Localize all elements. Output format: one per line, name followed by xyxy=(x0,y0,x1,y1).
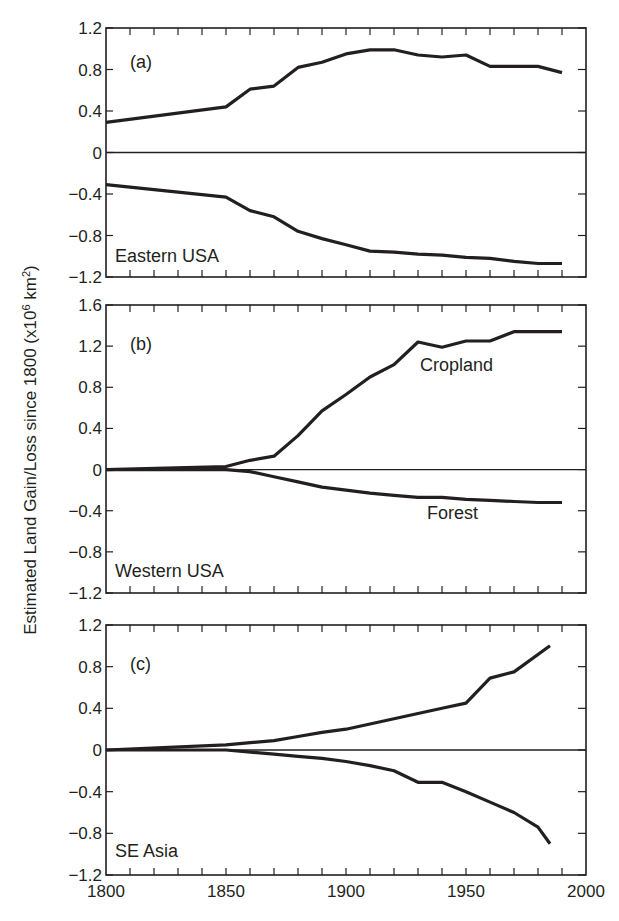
y-tick-label: 1.2 xyxy=(78,19,102,38)
y-tick-label: −0.4 xyxy=(68,783,102,802)
y-tick-label: −0.8 xyxy=(68,543,102,562)
series-cropland-line xyxy=(106,332,562,470)
panel-letter: (b) xyxy=(130,334,152,354)
y-tick-label: −0.4 xyxy=(68,185,102,204)
series-forest-line xyxy=(106,750,550,844)
cropland-label: Cropland xyxy=(420,355,493,375)
y-tick-label: 1.6 xyxy=(78,296,102,315)
y-tick-label: 0 xyxy=(93,741,102,760)
x-tick-label: 1900 xyxy=(327,882,365,901)
y-tick-label: 1.2 xyxy=(78,616,102,635)
region-label: SE Asia xyxy=(115,841,179,861)
y-tick-label: −1.2 xyxy=(68,584,102,603)
region-label: Eastern USA xyxy=(115,246,219,266)
y-tick-label: 0.4 xyxy=(78,102,102,121)
y-tick-label: 1.2 xyxy=(78,337,102,356)
region-label: Western USA xyxy=(115,561,224,581)
panel-a: 1.20.80.40−0.4−0.8−1.2(a)Eastern USA xyxy=(68,19,586,287)
series-forest-line xyxy=(106,470,562,503)
panel-b: 1.61.20.80.40−0.4−0.8−1.2(b)Western USAC… xyxy=(68,296,586,603)
y-tick-label: 0.4 xyxy=(78,419,102,438)
y-tick-label: 0 xyxy=(93,144,102,163)
y-tick-label: −1.2 xyxy=(68,268,102,287)
x-tick-label: 1950 xyxy=(447,882,485,901)
plot-frame xyxy=(106,305,586,593)
y-tick-label: −0.8 xyxy=(68,227,102,246)
forest-label: Forest xyxy=(427,503,478,523)
y-tick-label: 0.8 xyxy=(78,658,102,677)
y-tick-label: −0.8 xyxy=(68,824,102,843)
panel-c: 1.20.80.40−0.4−0.8−1.2(c)SE Asia18001850… xyxy=(68,616,604,901)
y-tick-label: 0 xyxy=(93,461,102,480)
chart-panels: 1.20.80.40−0.4−0.8−1.2(a)Eastern USA1.61… xyxy=(68,19,604,901)
x-tick-label: 1800 xyxy=(87,882,125,901)
x-tick-label: 2000 xyxy=(567,882,605,901)
series-cropland-line xyxy=(106,50,562,123)
y-axis-title: Estimated Land Gain/Loss since 1800 (x10… xyxy=(20,265,40,634)
land-change-chart: 1.20.80.40−0.4−0.8−1.2(a)Eastern USA1.61… xyxy=(0,0,619,921)
panel-letter: (a) xyxy=(130,52,152,72)
y-tick-label: 0.8 xyxy=(78,378,102,397)
panel-letter: (c) xyxy=(130,654,151,674)
series-cropland-line xyxy=(106,646,550,750)
y-tick-label: −0.4 xyxy=(68,502,102,521)
x-tick-label: 1850 xyxy=(207,882,245,901)
y-tick-label: 0.8 xyxy=(78,61,102,80)
y-tick-label: 0.4 xyxy=(78,699,102,718)
